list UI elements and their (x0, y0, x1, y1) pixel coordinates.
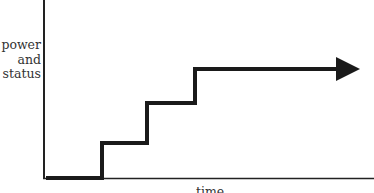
step-diagram: power and status time (0, 0, 374, 193)
y-axis-label: power and status (1, 38, 41, 82)
y-axis-label-line-2: and (1, 53, 41, 68)
x-axis-label: time (196, 184, 224, 193)
power-status-step-line (46, 69, 340, 178)
diagram-canvas (0, 0, 374, 193)
y-axis-label-line-3: status (1, 67, 41, 82)
y-axis-label-line-1: power (1, 38, 41, 53)
